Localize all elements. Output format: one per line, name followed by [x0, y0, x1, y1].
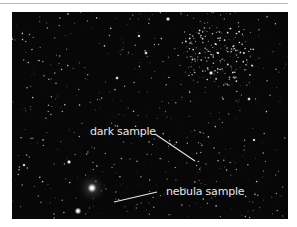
top-rule — [0, 3, 288, 4]
field-stars — [12, 12, 287, 219]
nebula-sample-label: nebula sample — [166, 186, 244, 198]
dark-sample-pointer — [155, 134, 195, 161]
star-field-photo: dark sample nebula sample — [12, 12, 288, 219]
dark-sample-label: dark sample — [90, 126, 156, 138]
star-cluster — [177, 25, 254, 88]
nebula-sample-pointer — [114, 192, 157, 202]
star-field-canvas — [12, 12, 288, 219]
